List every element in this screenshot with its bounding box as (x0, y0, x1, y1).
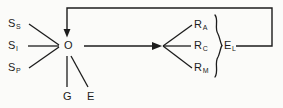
connector-ss-to-o (29, 24, 59, 45)
node-sub-s-s: S (16, 23, 21, 30)
node-label-s-i: SI (8, 40, 18, 51)
node-sub-r-m: M (203, 67, 209, 74)
node-label-r-a: RA (194, 19, 207, 30)
node-label-e-l: EL (224, 40, 235, 51)
connector-to-ra (163, 25, 192, 46)
brace-response-group (215, 15, 222, 77)
node-base-o: O (64, 39, 73, 51)
node-base-e-lower: E (87, 90, 95, 102)
node-base-s-p: S (8, 61, 16, 73)
node-label-s-p: SP (8, 62, 20, 73)
node-label-e-lower: E (87, 91, 95, 102)
node-label-r-c: RC (194, 40, 207, 51)
connector-e-to-o (71, 56, 88, 87)
node-label-s-s: SS (8, 18, 20, 29)
connector-to-rm (163, 46, 192, 68)
node-base-g: G (63, 90, 72, 102)
node-sub-r-a: A (203, 24, 208, 31)
connector-feedback-loop (67, 8, 272, 46)
node-sub-r-c: C (203, 45, 208, 52)
node-base-r-m: R (194, 61, 202, 73)
node-label-r-m: RM (194, 62, 208, 73)
diagram-lines (0, 0, 283, 108)
node-label-g: G (63, 91, 72, 102)
diagram-canvas: SS SI SP O G E RA RC RM EL (0, 0, 283, 108)
node-sub-s-p: P (16, 67, 21, 74)
node-base-e-l: E (224, 39, 232, 51)
node-sub-s-i: I (16, 45, 18, 52)
node-sub-e-l: L (232, 45, 236, 52)
node-base-s-i: S (8, 39, 16, 51)
node-base-r-c: R (194, 39, 202, 51)
node-base-s-s: S (8, 17, 16, 29)
connector-sp-to-o (29, 47, 59, 68)
node-base-r-a: R (194, 18, 202, 30)
node-label-o: O (64, 40, 73, 51)
